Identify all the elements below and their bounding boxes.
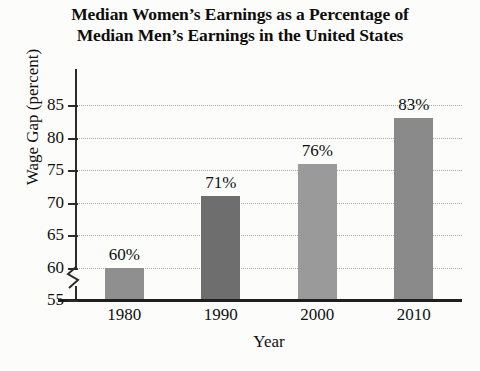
y-axis-tick — [68, 105, 78, 107]
y-axis-tick-label: 75 — [26, 161, 64, 178]
bar-1990 — [201, 196, 240, 300]
bar-value-label: 60% — [84, 246, 164, 263]
y-axis-tick-label: 85 — [26, 96, 64, 113]
y-axis-tick-label: 55 — [26, 291, 64, 308]
chart-title: Median Women’s Earnings as a Percentage … — [0, 4, 480, 46]
y-axis-tick-label: 60 — [26, 259, 64, 276]
y-axis-tick — [68, 300, 78, 302]
chart-title-line-1: Median Women’s Earnings as a Percentage … — [0, 4, 480, 25]
y-axis-tick — [68, 138, 78, 140]
bar-value-label: 76% — [277, 142, 357, 159]
x-axis-line — [58, 299, 462, 302]
chart-title-line-2: Median Men’s Earnings in the United Stat… — [0, 25, 480, 46]
x-axis-tick-label: 1980 — [79, 306, 169, 324]
y-axis-tick — [68, 268, 78, 270]
x-axis-label: Year — [76, 332, 462, 352]
y-axis-tick — [68, 235, 78, 237]
bar-value-label: 71% — [181, 174, 261, 191]
axis-break-icon — [62, 266, 84, 290]
x-axis-tick-label: 1990 — [176, 306, 266, 324]
bar-1980 — [105, 268, 144, 301]
bar-2000 — [298, 164, 337, 301]
y-axis-tick-label: 65 — [26, 226, 64, 243]
bar-value-label: 83% — [374, 96, 454, 113]
chart-figure: Median Women’s Earnings as a Percentage … — [0, 0, 480, 371]
y-axis-tick — [68, 170, 78, 172]
y-axis-tick-label: 80 — [26, 129, 64, 146]
x-axis-tick-label: 2000 — [272, 306, 362, 324]
y-axis-tick — [68, 203, 78, 205]
bar-2010 — [394, 118, 433, 300]
x-axis-tick-label: 2010 — [369, 306, 459, 324]
y-axis-tick-label: 70 — [26, 194, 64, 211]
